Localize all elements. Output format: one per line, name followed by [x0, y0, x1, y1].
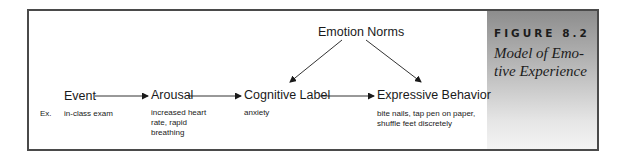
- diagram-arrows: [0, 0, 623, 159]
- example-expressive: bite nails, tap pen on paper, shuffle fe…: [377, 109, 477, 129]
- example-prefix: Ex.: [40, 109, 52, 119]
- example-cognitive: anxiety: [244, 108, 269, 118]
- node-event: Event: [64, 89, 96, 103]
- node-expressive-behavior: Expressive Behavior: [377, 88, 491, 102]
- example-arousal: increased heart rate, rapid breathing: [151, 108, 211, 138]
- node-arousal: Arousal: [151, 88, 193, 102]
- arrow-norms-cognitive: [290, 40, 342, 82]
- arrow-norms-expressive: [366, 40, 421, 82]
- example-event: in-class exam: [64, 109, 113, 119]
- node-emotion-norms: Emotion Norms: [318, 25, 404, 39]
- node-cognitive-label: Cognitive Label: [244, 88, 330, 102]
